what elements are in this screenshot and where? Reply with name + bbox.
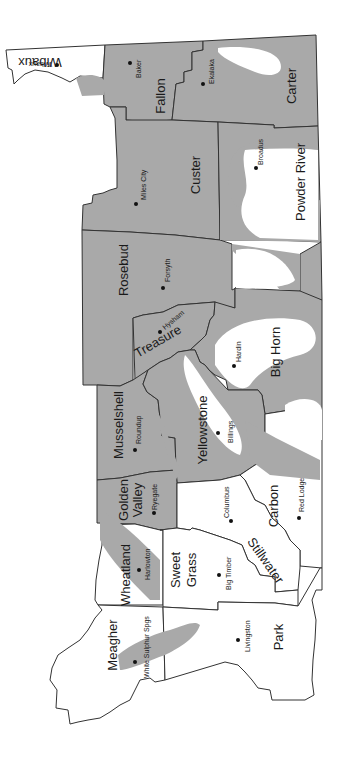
town-dot-big-timber	[217, 573, 221, 577]
label-meagher: Meagher	[105, 619, 120, 671]
label-town-baker: Baker	[135, 59, 142, 78]
label-sweet: Sweet	[168, 552, 183, 589]
label-town-big-timber: Big Timber	[225, 556, 233, 590]
label-town-red-lodge: Red Lodge	[298, 478, 306, 512]
label-big-horn: Big Horn	[268, 327, 283, 378]
label-powder-river: Powder River	[293, 142, 308, 221]
label-custer: Custer	[188, 155, 203, 194]
town-dot-roundup	[133, 448, 137, 452]
label-town-roundup: Roundup	[135, 415, 143, 444]
town-dot-columbus	[229, 519, 233, 523]
label-town-livingston: Livingston	[244, 620, 252, 652]
town-dot-baker	[128, 61, 132, 65]
label-park: Park	[271, 623, 286, 650]
town-dot-hardin	[232, 364, 236, 368]
county-map: Wibaux Fallon Carter Custer Powder River…	[0, 0, 340, 762]
label-grass: Grass	[184, 552, 199, 587]
town-dot-ryegate	[152, 511, 156, 515]
town-dot-ekalaka	[201, 82, 205, 86]
label-town-wibaux: Wibaux	[28, 61, 52, 68]
label-town-columbus: Columbus	[223, 486, 230, 518]
town-dot-white-sulphur	[133, 660, 137, 664]
town-dot-red-lodge	[297, 516, 301, 520]
label-yellowstone: Yellowstone	[195, 396, 210, 465]
town-dot-billings	[216, 431, 220, 435]
label-wheatland: Wheatland	[118, 544, 133, 606]
label-fallon: Fallon	[153, 78, 168, 113]
label-rosebud: Rosebud	[116, 244, 131, 296]
label-musselshell: Musselshell	[111, 391, 126, 459]
town-dot-hysham	[158, 330, 162, 334]
label-carter: Carter	[284, 67, 299, 104]
label-town-forsyth: Forsyth	[164, 259, 172, 282]
label-carbon: Carbon	[266, 485, 281, 528]
town-dot-harlowton	[137, 568, 141, 572]
label-town-harlowton: Harlowton	[144, 548, 151, 580]
town-dot-wibaux	[55, 63, 59, 67]
label-town-white-sulphur: White Sulphur Spgs	[143, 616, 151, 678]
label-golden: Golden	[116, 479, 131, 521]
town-dot-broadus	[254, 166, 258, 170]
county-borders-base	[6, 35, 322, 724]
label-valley: Valley	[130, 482, 145, 517]
town-dot-miles-city	[134, 202, 138, 206]
town-dot-forsyth	[161, 286, 165, 290]
label-town-broadus: Broadus	[257, 138, 264, 165]
label-town-miles-city: Miles City	[140, 169, 148, 200]
town-dot-livingston	[236, 638, 240, 642]
label-town-hardin: Hardin	[235, 341, 242, 362]
label-town-ekalaka: Ekalaka	[208, 59, 215, 84]
label-town-ryegate: Ryegate	[151, 484, 159, 510]
label-town-billings: Billings	[227, 420, 235, 443]
